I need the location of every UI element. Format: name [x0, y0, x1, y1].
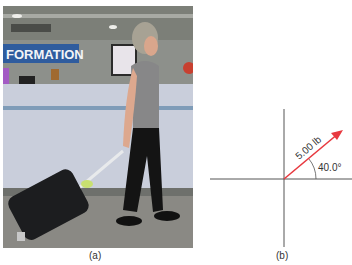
angle-label: 40.0°	[318, 162, 341, 173]
angle-arc	[309, 158, 317, 179]
panel-b-label: (b)	[276, 250, 288, 261]
force-vector-diagram: 5.00 lb 40.0°	[0, 0, 352, 265]
magnitude-label: 5.00 lb	[293, 134, 323, 162]
